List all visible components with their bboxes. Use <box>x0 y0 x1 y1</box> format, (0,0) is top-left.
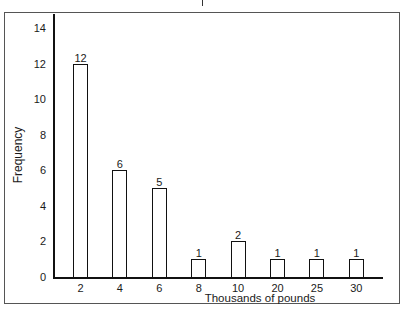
y-axis-line <box>53 14 55 278</box>
bar-value-label: 12 <box>71 52 91 64</box>
y-tick-label: 12 <box>20 58 46 70</box>
bar-8 <box>191 259 206 278</box>
bar-10 <box>231 241 246 278</box>
bar-value-label: 1 <box>307 247 327 259</box>
y-tick-label: 0 <box>20 271 46 283</box>
bar-20 <box>270 259 285 278</box>
x-axis-label: Thousands of pounds <box>190 292 330 304</box>
bar-6 <box>152 188 167 278</box>
top-tick-mark <box>202 0 203 6</box>
y-tick-label: 8 <box>20 129 46 141</box>
x-tick-label: 30 <box>344 282 368 294</box>
y-tick-label: 10 <box>20 93 46 105</box>
bar-value-label: 5 <box>149 176 169 188</box>
x-tick-label: 2 <box>69 282 93 294</box>
y-tick-label: 6 <box>20 164 46 176</box>
bar-2 <box>73 64 88 278</box>
bar-30 <box>349 259 364 278</box>
bar-value-label: 1 <box>189 247 209 259</box>
y-tick-label: 2 <box>20 235 46 247</box>
x-axis-line <box>53 277 383 279</box>
bar-4 <box>112 170 127 278</box>
x-tick-label: 6 <box>147 282 171 294</box>
bar-value-label: 6 <box>110 158 130 170</box>
bar-value-label: 1 <box>268 247 288 259</box>
y-axis-label: Frequency <box>11 115 25 195</box>
y-tick-label: 14 <box>20 22 46 34</box>
bar-value-label: 2 <box>228 229 248 241</box>
x-tick-label: 4 <box>108 282 132 294</box>
bar-value-label: 1 <box>346 247 366 259</box>
y-tick-label: 4 <box>20 200 46 212</box>
bar-25 <box>309 259 324 278</box>
